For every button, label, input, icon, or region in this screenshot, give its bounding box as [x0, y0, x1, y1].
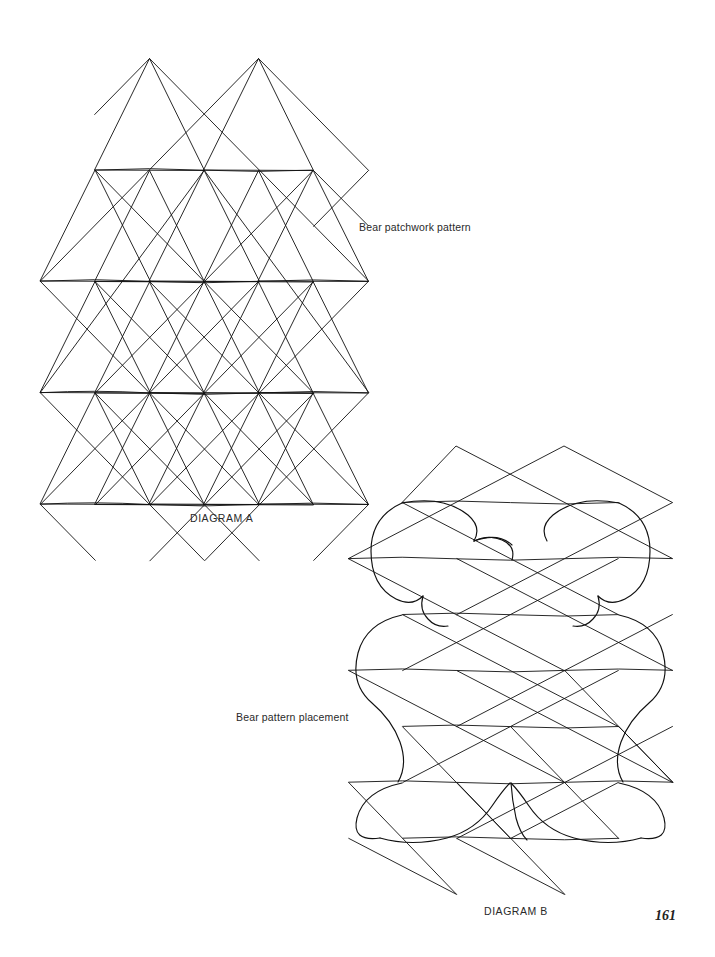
caption-bear-patchwork-pattern: Bear patchwork pattern [359, 222, 471, 233]
label-diagram-a: DIAGRAM A [190, 513, 253, 524]
page-canvas: Bear patchwork pattern DIAGRAM A Bear pa… [0, 0, 715, 957]
page-number: 161 [655, 908, 676, 924]
label-diagram-b: DIAGRAM B [484, 906, 548, 917]
caption-bear-pattern-placement: Bear pattern placement [236, 712, 348, 723]
diagram-b-figure [0, 0, 715, 957]
diagram-b-lattice [348, 446, 673, 895]
